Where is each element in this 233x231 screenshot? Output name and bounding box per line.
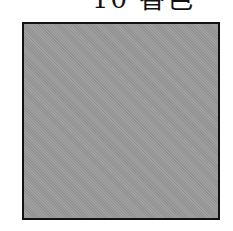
color-swatch (22, 22, 220, 220)
swatch-caption: 10 香色 (92, 0, 195, 12)
